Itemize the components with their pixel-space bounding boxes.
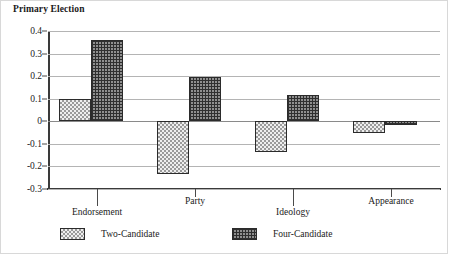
bar-ideology-four-candidate	[287, 95, 319, 121]
y-axis-tick-label: 0.3	[30, 49, 42, 59]
legend-swatch-four-candidate	[232, 228, 257, 240]
y-axis-tick-label: 0.4	[30, 26, 42, 36]
legend-item-two-candidate[interactable]: Two-Candidate	[60, 228, 159, 240]
category-label-party: Party	[185, 196, 205, 206]
y-axis-line	[48, 31, 50, 189]
category-tick-mark	[97, 189, 98, 206]
y-axis-tick-mark	[42, 31, 47, 32]
y-axis-tick-mark	[42, 166, 47, 167]
y-axis-tick-mark	[42, 76, 47, 77]
legend-swatch-two-candidate	[60, 228, 85, 240]
y-axis-tick-label: -0.1	[27, 139, 42, 149]
bar-endorsement-four-candidate	[91, 40, 123, 121]
y-axis-tick-mark	[42, 189, 47, 190]
bar-party-four-candidate	[189, 77, 221, 121]
gridline	[48, 31, 440, 32]
legend-label-two-candidate: Two-Candidate	[101, 229, 159, 239]
bar-party-two-candidate	[157, 121, 189, 174]
category-label-endorsement: Endorsement	[72, 207, 122, 217]
plot-area: 0.40.30.20.10-0.1-0.2-0.3	[48, 31, 440, 189]
y-axis-tick-mark	[42, 143, 47, 144]
bar-appearance-two-candidate	[353, 121, 385, 132]
y-axis-tick-label: 0	[37, 116, 42, 126]
y-axis-tick-label: -0.2	[27, 161, 42, 171]
legend-item-four-candidate[interactable]: Four-Candidate	[232, 228, 332, 240]
chart-legend: Two-CandidateFour-Candidate	[0, 222, 449, 250]
bar-ideology-two-candidate	[255, 121, 287, 151]
chart-title: Primary Election	[13, 4, 85, 14]
legend-label-four-candidate: Four-Candidate	[273, 229, 332, 239]
y-axis-tick-mark	[42, 98, 47, 99]
y-axis-tick-mark	[42, 121, 47, 122]
category-label-appearance: Appearance	[368, 196, 413, 206]
category-label-ideology: Ideology	[276, 207, 310, 217]
gridline	[48, 189, 440, 190]
gridline	[48, 166, 440, 167]
y-axis-tick-label: 0.1	[30, 94, 42, 104]
bar-endorsement-two-candidate	[59, 99, 91, 122]
bar-appearance-four-candidate	[385, 121, 417, 124]
y-axis-tick-label: -0.3	[27, 184, 42, 194]
category-tick-mark	[293, 189, 294, 206]
gridline	[48, 144, 440, 145]
y-axis-tick-mark	[42, 53, 47, 54]
y-axis-tick-label: 0.2	[30, 71, 42, 81]
